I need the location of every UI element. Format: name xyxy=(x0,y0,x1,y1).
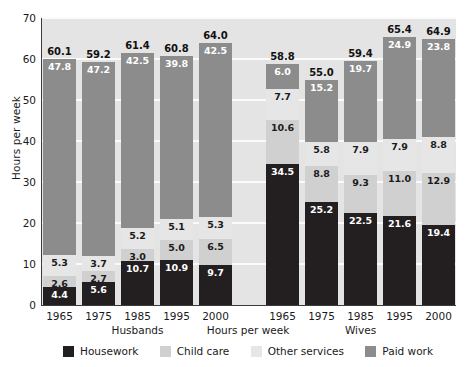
segment-value-label: 7.7 xyxy=(274,89,291,102)
bar-segment-other-services: 5.3 xyxy=(43,255,76,277)
x-axis-tick-label: 1985 xyxy=(341,310,381,322)
segment-value-label: 10.9 xyxy=(165,260,188,273)
segment-value-label: 21.6 xyxy=(388,216,411,229)
segment-value-label: 4.4 xyxy=(51,287,68,300)
bar-total-label: 58.8 xyxy=(270,51,295,62)
plot-area: 01020304050607047.85.32.64.460.1196547.2… xyxy=(41,18,456,306)
x-axis-tick-label: 1995 xyxy=(157,310,197,322)
bar-husbands-1985: 42.55.23.010.761.41985 xyxy=(121,53,154,305)
segment-value-label: 47.2 xyxy=(87,62,110,75)
segment-value-label: 9.7 xyxy=(207,265,224,278)
x-axis-tick-label: 1995 xyxy=(380,310,420,322)
segment-value-label: 6.0 xyxy=(274,64,291,77)
segment-value-label: 22.5 xyxy=(349,213,372,226)
bar-segment-housework: 10.7 xyxy=(121,261,154,305)
bar-husbands-1995: 39.85.15.010.960.81995 xyxy=(160,56,193,305)
bar-segment-child-care: 8.8 xyxy=(305,166,338,202)
legend-item-paid-work[interactable]: Paid work xyxy=(365,345,433,357)
bar-total-label: 55.0 xyxy=(309,67,334,78)
bar-segment-other-services: 5.3 xyxy=(199,217,232,239)
bar-segment-other-services: 7.7 xyxy=(266,89,299,121)
legend-label: Other services xyxy=(268,345,344,357)
bar-segment-child-care: 6.5 xyxy=(199,239,232,266)
bar-segment-child-care: 12.9 xyxy=(422,173,455,226)
segment-value-label: 5.6 xyxy=(90,282,107,295)
segment-value-label: 34.5 xyxy=(271,164,294,177)
bar-total-label: 64.9 xyxy=(426,26,451,37)
gridline xyxy=(42,17,456,19)
segment-value-label: 8.8 xyxy=(313,166,330,179)
legend-label: Housework xyxy=(80,345,138,357)
bar-wives-1965: 6.07.710.634.558.81965 xyxy=(266,64,299,305)
legend-item-child-care[interactable]: Child care xyxy=(160,345,230,357)
bar-segment-other-services: 7.9 xyxy=(344,142,377,174)
bar-wives-1975: 15.25.88.825.255.01975 xyxy=(305,80,338,305)
bar-total-label: 60.8 xyxy=(164,43,189,54)
y-axis-tick-label: 0 xyxy=(29,299,36,311)
bar-segment-paid-work: 15.2 xyxy=(305,80,338,142)
segment-value-label: 5.3 xyxy=(51,255,68,268)
bar-segment-child-care: 11.0 xyxy=(383,171,416,216)
segment-value-label: 3.0 xyxy=(129,249,146,262)
bar-segment-paid-work: 19.7 xyxy=(344,61,377,142)
segment-value-label: 42.5 xyxy=(126,53,149,66)
bar-husbands-2000: 42.55.36.59.764.02000 xyxy=(199,43,232,305)
bar-segment-child-care: 2.6 xyxy=(43,276,76,287)
segment-value-label: 19.7 xyxy=(349,61,372,74)
bar-segment-other-services: 3.7 xyxy=(82,256,115,271)
y-axis-tick-label: 20 xyxy=(23,217,36,229)
bar-segment-housework: 10.9 xyxy=(160,260,193,305)
bar-segment-housework: 4.4 xyxy=(43,287,76,305)
bar-segment-paid-work: 47.8 xyxy=(43,59,76,255)
segment-value-label: 5.0 xyxy=(168,240,185,253)
bar-segment-paid-work: 47.2 xyxy=(82,62,115,256)
bar-total-label: 59.2 xyxy=(86,49,111,60)
y-axis-tick-label: 70 xyxy=(23,12,36,24)
bar-husbands-1965: 47.85.32.64.460.11965 xyxy=(43,59,76,305)
y-axis-tick-label: 30 xyxy=(23,176,36,188)
x-axis-tick-label: 1975 xyxy=(302,310,342,322)
bar-segment-child-care: 10.6 xyxy=(266,120,299,163)
bar-segment-paid-work: 42.5 xyxy=(121,53,154,227)
bar-segment-child-care: 2.7 xyxy=(82,271,115,282)
y-axis-title: Hours per week xyxy=(10,78,22,198)
bar-segment-child-care: 3.0 xyxy=(121,249,154,261)
bar-wives-1985: 19.77.99.322.559.41985 xyxy=(344,61,377,305)
segment-value-label: 7.9 xyxy=(391,139,408,152)
bar-total-label: 60.1 xyxy=(47,46,72,57)
bar-segment-housework: 22.5 xyxy=(344,213,377,305)
segment-value-label: 8.8 xyxy=(430,137,447,150)
legend-item-other-services[interactable]: Other services xyxy=(251,345,344,357)
bar-segment-housework: 9.7 xyxy=(199,265,232,305)
legend-label: Paid work xyxy=(382,345,433,357)
bar-total-label: 61.4 xyxy=(125,40,150,51)
y-axis-tick-label: 10 xyxy=(23,258,36,270)
segment-value-label: 24.9 xyxy=(388,37,411,50)
segment-value-label: 25.2 xyxy=(310,202,333,215)
bar-wives-1995: 24.97.911.021.665.41995 xyxy=(383,37,416,305)
bar-segment-housework: 5.6 xyxy=(82,282,115,305)
legend-swatch-icon xyxy=(160,346,171,357)
chart-legend: HouseworkChild careOther servicesPaid wo… xyxy=(41,345,455,357)
legend-swatch-icon xyxy=(251,346,262,357)
bar-wives-2000: 23.88.812.919.464.92000 xyxy=(422,39,455,305)
bar-segment-child-care: 5.0 xyxy=(160,240,193,261)
segment-value-label: 5.2 xyxy=(129,228,146,241)
bar-segment-other-services: 5.2 xyxy=(121,228,154,249)
segment-value-label: 9.3 xyxy=(352,175,369,188)
stacked-bar-chart: Hours per week 01020304050607047.85.32.6… xyxy=(0,0,475,367)
bar-segment-other-services: 5.8 xyxy=(305,142,338,166)
bar-segment-paid-work: 23.8 xyxy=(422,39,455,137)
legend-label: Child care xyxy=(177,345,230,357)
x-axis-title: Hours per week xyxy=(41,324,455,336)
bar-total-label: 64.0 xyxy=(203,30,228,41)
x-axis-tick-label: 1975 xyxy=(79,310,119,322)
segment-value-label: 6.5 xyxy=(207,239,224,252)
x-axis-tick-label: 1985 xyxy=(118,310,158,322)
legend-item-housework[interactable]: Housework xyxy=(63,345,138,357)
segment-value-label: 42.5 xyxy=(204,43,227,56)
segment-value-label: 5.1 xyxy=(168,219,185,232)
segment-value-label: 5.8 xyxy=(313,142,330,155)
y-axis-tick-label: 60 xyxy=(23,53,36,65)
bar-total-label: 65.4 xyxy=(387,24,412,35)
